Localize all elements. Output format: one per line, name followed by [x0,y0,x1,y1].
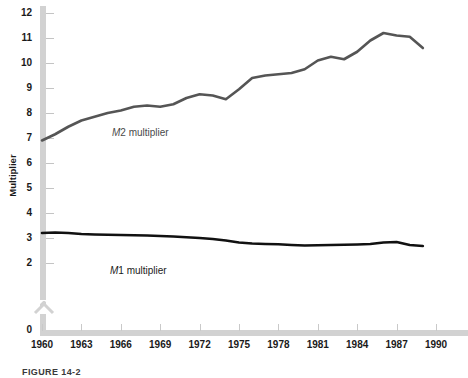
figure-root: Multiplier 023456789101112 1960196319661… [0,0,468,378]
chart-plot-area [0,0,468,378]
series-label-m1-text: 1 multiplier [118,265,166,276]
series-label-m2-text: 2 multiplier [120,127,168,138]
series-label-m1: M1 multiplier [110,265,167,276]
series-label-m2: M2 multiplier [112,127,169,138]
figure-caption: FIGURE 14-2 [22,367,81,377]
series-line-m1 [42,233,423,247]
series-line-m2 [42,33,423,141]
